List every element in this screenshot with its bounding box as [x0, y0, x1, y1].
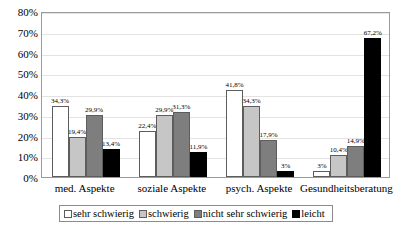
bar-value-label: 3% — [281, 162, 290, 170]
x-axis: med. Aspektesoziale Aspektepsych. Aspekt… — [41, 181, 390, 197]
bar[interactable] — [69, 137, 86, 177]
y-tick-label: 80% — [0, 7, 38, 18]
legend-swatch-icon — [64, 210, 72, 218]
bar-value-label: 31,3% — [172, 103, 190, 111]
bar-value-label: 34,3% — [51, 97, 69, 105]
x-tick-label: soziale Aspekte — [138, 181, 207, 195]
legend-item[interactable]: nicht sehr schwierig — [194, 208, 288, 219]
legend-swatch-icon — [292, 210, 300, 218]
chart-legend: sehr schwierigschwierignicht sehr schwie… — [59, 205, 333, 222]
bar-wrap: 29,9% — [156, 11, 173, 177]
bar-wrap: 34,3% — [243, 11, 260, 177]
bar-wrap: 29,9% — [86, 11, 103, 177]
y-axis: 0%10%20%30%40%50%60%70%80% — [0, 12, 38, 178]
y-tick-label: 0% — [0, 173, 38, 184]
bar-value-label: 13,4% — [102, 140, 120, 148]
bar-wrap: 41,8% — [226, 11, 243, 177]
legend-label: nicht sehr schwierig — [203, 208, 288, 219]
plot-area: 34,3%19,4%29,9%13,4%22,4%29,9%31,3%11,9%… — [41, 12, 390, 178]
bar[interactable] — [313, 171, 330, 177]
bar-wrap: 22,4% — [139, 11, 156, 177]
bar-wrap: 3% — [313, 11, 330, 177]
bar[interactable] — [260, 140, 277, 177]
bar[interactable] — [330, 155, 347, 177]
x-tick-label: psych. Aspekte — [226, 181, 293, 195]
bar-value-label: 34,3% — [243, 97, 261, 105]
legend-item[interactable]: sehr schwierig — [64, 208, 134, 219]
legend-swatch-icon — [194, 210, 202, 218]
bar[interactable] — [139, 131, 156, 177]
bar-value-label: 10,4% — [330, 146, 348, 154]
bar-group: 34,3%19,4%29,9%13,4% — [52, 13, 120, 177]
bar-value-label: 67,2% — [364, 29, 382, 37]
bar-value-label: 29,9% — [155, 106, 173, 114]
bar-value-label: 17,9% — [260, 131, 278, 139]
y-tick-label: 60% — [0, 48, 38, 59]
bar-group: 22,4%29,9%31,3%11,9% — [139, 13, 207, 177]
bar-chart: 0%10%20%30%40%50%60%70%80% 34,3%19,4%29,… — [0, 0, 401, 237]
y-tick-label: 40% — [0, 90, 38, 101]
bar-wrap: 67,2% — [364, 11, 381, 177]
bar-wrap: 3% — [277, 11, 294, 177]
y-tick-label: 50% — [0, 69, 38, 80]
x-tick-label: med. Aspekte — [55, 181, 115, 195]
bar-wrap: 13,4% — [103, 11, 120, 177]
y-tick-label: 10% — [0, 152, 38, 163]
bar-value-label: 14,9% — [347, 137, 365, 145]
bar[interactable] — [243, 106, 260, 177]
bar-value-label: 29,9% — [85, 106, 103, 114]
bar[interactable] — [190, 152, 207, 177]
bar-wrap: 19,4% — [69, 11, 86, 177]
bar[interactable] — [103, 149, 120, 177]
bar-value-label: 41,8% — [226, 81, 244, 89]
bar-wrap: 34,3% — [52, 11, 69, 177]
bar-value-label: 11,9% — [189, 143, 207, 151]
y-tick-label: 20% — [0, 131, 38, 142]
legend-label: schwierig — [148, 208, 189, 219]
x-tick-label: Gesundheitsberatung — [300, 181, 393, 195]
bar-wrap: 10,4% — [330, 11, 347, 177]
bar[interactable] — [347, 146, 364, 177]
bar-value-label: 22,4% — [138, 122, 156, 130]
bar-wrap: 17,9% — [260, 11, 277, 177]
bar-wrap: 11,9% — [190, 11, 207, 177]
bar[interactable] — [52, 106, 69, 177]
bar[interactable] — [364, 38, 381, 177]
bar-group: 3%10,4%14,9%67,2% — [313, 13, 381, 177]
legend-label: leicht — [301, 208, 324, 219]
bar-wrap: 31,3% — [173, 11, 190, 177]
y-tick-label: 70% — [0, 27, 38, 38]
legend-item[interactable]: schwierig — [139, 208, 189, 219]
legend-label: sehr schwierig — [73, 208, 134, 219]
bar[interactable] — [173, 112, 190, 177]
bars-layer: 34,3%19,4%29,9%13,4%22,4%29,9%31,3%11,9%… — [42, 13, 389, 177]
bar[interactable] — [156, 115, 173, 177]
bar[interactable] — [277, 171, 294, 177]
bar-wrap: 14,9% — [347, 11, 364, 177]
bar-value-label: 3% — [317, 162, 326, 170]
legend-item[interactable]: leicht — [292, 208, 324, 219]
legend-swatch-icon — [139, 210, 147, 218]
bar[interactable] — [226, 90, 243, 177]
bar-value-label: 19,4% — [68, 128, 86, 136]
bar[interactable] — [86, 115, 103, 177]
y-tick-label: 30% — [0, 110, 38, 121]
bar-group: 41,8%34,3%17,9%3% — [226, 13, 294, 177]
